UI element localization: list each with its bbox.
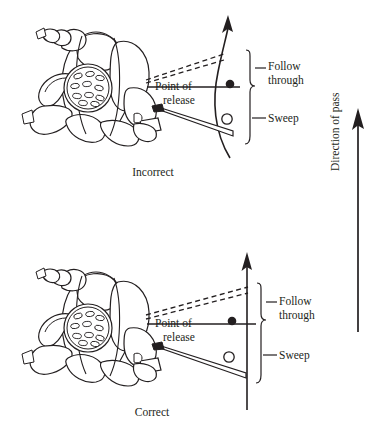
panel-caption-incorrect: Incorrect [132,166,174,179]
bowler-figure-bottom [22,268,161,386]
zone-label-sweep-top: Sweep [268,112,299,125]
zone-label-follow-bottom-line1: Follow [279,295,312,307]
panel-bottom-correct [22,252,277,410]
release-label-bottom-line2: release [151,331,207,345]
panel-top-incorrect [22,15,266,158]
release-label-bottom: Point of release [155,317,211,344]
release-label-bottom-line1: Point of [155,317,192,329]
sweep-implement-top [152,104,233,136]
follow-through-dashed-bottom [146,287,248,319]
panel-caption-correct: Correct [135,406,169,419]
ball-at-release-bottom [228,317,237,326]
zone-label-sweep-bottom: Sweep [279,349,310,362]
delivery-path-straight-bottom [242,252,253,410]
zone-label-follow-bottom-line2: through [279,309,315,321]
figure-bowling-action: Point of release Follow through Sweep In… [0,0,382,434]
ball-at-release-top [226,80,235,89]
zone-label-follow-top-line1: Follow [268,60,301,72]
release-label-top-line2: release [151,94,207,108]
bowler-figure-top [22,28,161,146]
direction-of-pass-arrow [352,108,364,332]
zone-label-follow-through-top: Follow through [268,60,328,87]
release-label-top: Point of release [155,80,211,107]
ball-in-sweep-top [222,114,232,124]
zone-label-follow-through-bottom: Follow through [279,295,339,322]
follow-through-dashed-top [146,54,224,83]
release-label-top-line1: Point of [155,80,192,92]
zone-brackets-top [245,50,266,144]
direction-of-pass-label: Direction of pass [329,92,342,171]
zone-brackets-bottom [256,283,277,383]
zone-label-follow-top-line2: through [268,74,304,86]
ball-in-sweep-bottom [224,352,234,362]
